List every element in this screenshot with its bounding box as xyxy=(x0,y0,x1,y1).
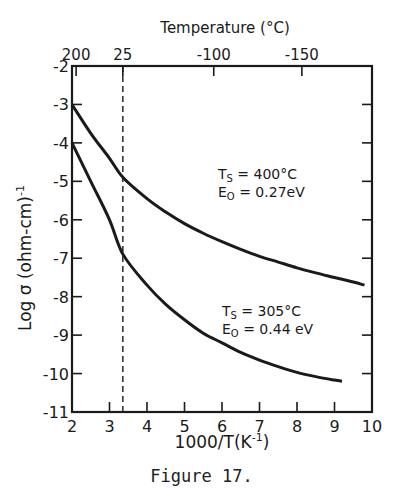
conductivity-chart: 2345678910-2-3-4-5-6-7-8-9-10-1120025-10… xyxy=(0,0,403,499)
data-curves xyxy=(72,66,365,412)
top-tick-label: -150 xyxy=(285,46,319,64)
y-tick-label: -10 xyxy=(43,365,69,384)
y-tick-label: -7 xyxy=(53,249,69,268)
axis-ticks: 2345678910-2-3-4-5-6-7-8-9-10-1120025-10… xyxy=(43,46,382,436)
top-axis-title: Temperature (°C) xyxy=(159,19,289,37)
top-tick-label: -100 xyxy=(197,46,231,64)
x-axis-title: 1000/T(K-1) xyxy=(175,431,270,452)
y-tick-label: -3 xyxy=(53,95,69,114)
y-tick-label: -11 xyxy=(43,403,69,422)
annotation-e0-044: EO = 0.44 eV xyxy=(222,321,314,339)
top-tick-label: 25 xyxy=(113,46,132,64)
y-tick-label: -8 xyxy=(53,288,69,307)
annotation-ts-400: TS = 400°C xyxy=(217,166,297,184)
x-tick-label: 3 xyxy=(104,417,114,436)
x-tick-label: 9 xyxy=(329,417,339,436)
y-tick-label: -9 xyxy=(53,326,69,345)
x-tick-label: 10 xyxy=(362,417,382,436)
y-tick-label: -6 xyxy=(53,211,69,230)
curve-series-2 xyxy=(72,143,342,381)
y-tick-label: -5 xyxy=(53,172,69,191)
y-tick-label: -4 xyxy=(53,134,69,153)
x-tick-label: 8 xyxy=(292,417,302,436)
figure-caption: Figure 17. xyxy=(0,466,403,486)
y-axis-title: Log σ (ohm-cm)-1 xyxy=(14,185,35,331)
annotation-ts-305: TS = 305°C xyxy=(221,303,301,321)
top-tick-label: 200 xyxy=(62,46,91,64)
annotation-e0-027: EO = 0.27eV xyxy=(218,184,305,202)
x-tick-label: 4 xyxy=(142,417,152,436)
